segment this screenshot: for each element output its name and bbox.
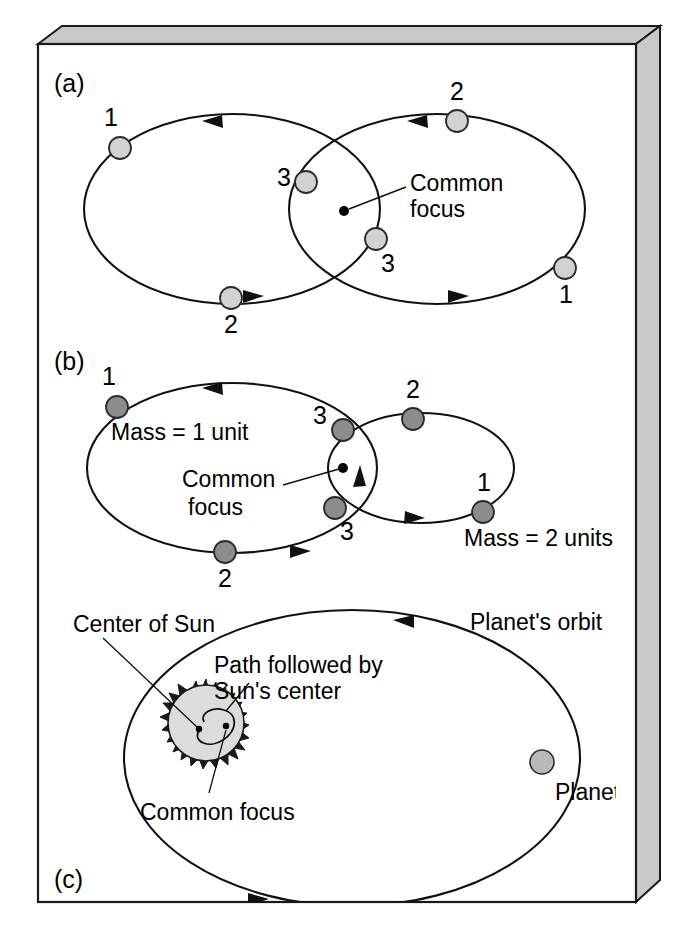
panel-b-mass1-label: Mass = 1 unit xyxy=(111,419,249,445)
panel-a-body-right-pos2 xyxy=(446,110,468,132)
panel-a-label-left-2: 2 xyxy=(224,310,238,338)
panel-a-body-right-pos3 xyxy=(365,228,387,250)
panel-a-body-right-pos1 xyxy=(554,257,576,279)
panel-b-body-small-pos1 xyxy=(472,501,494,523)
panel-c-center-of-sun-label: Center of Sun xyxy=(73,611,215,637)
panel-a-label-right-1: 1 xyxy=(559,280,573,308)
panel-b-letter: (b) xyxy=(54,347,85,375)
panel-a-label-right-3: 3 xyxy=(381,249,395,277)
panel-a-common-focus-dot xyxy=(339,206,349,216)
panel-b-label-large-1: 1 xyxy=(102,362,116,390)
panel-a-letter: (a) xyxy=(54,69,85,97)
panel-b-label-small-1: 1 xyxy=(477,468,491,496)
panel-a-common-focus-label-line1: Common xyxy=(410,170,503,196)
panel-b-body-large-pos2 xyxy=(214,541,236,563)
panel-a-label-left-3: 3 xyxy=(277,163,291,191)
panel-c-planet-label: Planet xyxy=(555,779,621,805)
panel-b-mass2-label: Mass = 2 units xyxy=(464,525,613,551)
panel-a-label-right-2: 2 xyxy=(450,77,464,105)
panel-b-label-large-2: 2 xyxy=(218,564,232,592)
figure-frame xyxy=(38,26,660,902)
panel-b-body-large-pos3 xyxy=(332,419,354,441)
panel-c-sun-path-label-line1: Path followed by xyxy=(214,652,383,678)
panel-a-body-left-pos1 xyxy=(109,137,131,159)
panel-c-planet-orbit-label: Planet's orbit xyxy=(470,609,603,635)
panel-b-label-large-3: 3 xyxy=(313,401,327,429)
panel-b-body-large-pos3b xyxy=(324,497,346,519)
panel-c-common-focus-dot xyxy=(223,723,229,729)
panel-c-planet-body xyxy=(530,750,554,774)
panel-b-label-small-2: 2 xyxy=(406,375,420,403)
frame-right-bevel xyxy=(636,26,660,902)
panel-a-label-left-1: 1 xyxy=(104,103,118,131)
panel-b-body-large-pos1 xyxy=(106,396,128,418)
panel-b-common-focus-label-line1: Common xyxy=(182,466,275,492)
frame-top-bevel xyxy=(38,26,660,44)
panel-b-label-large-3b: 3 xyxy=(340,517,354,545)
panel-a-body-left-pos2 xyxy=(220,287,242,309)
panel-b-common-focus-dot xyxy=(338,463,348,473)
panel-c-letter: (c) xyxy=(54,865,83,893)
panel-b-body-small-pos2 xyxy=(402,408,424,430)
panel-b-common-focus-label-line2: focus xyxy=(188,494,243,520)
panel-a-common-focus-label-line2: focus xyxy=(410,196,465,222)
panel-a-body-left-pos3 xyxy=(295,171,317,193)
panel-c-sun-path-label-line2: Sun's center xyxy=(214,678,341,704)
panel-c-common-focus-label: Common focus xyxy=(140,799,295,825)
orbital-mechanics-figure: (a) Common focus 1 2 3 1 2 3 (b) xyxy=(0,0,685,946)
